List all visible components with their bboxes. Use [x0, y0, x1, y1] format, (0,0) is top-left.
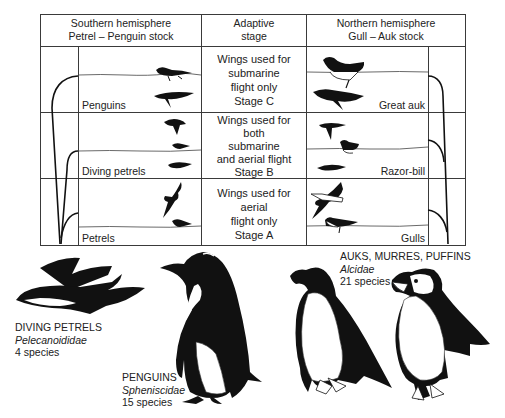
stage-c-description: Wings used for submarine flight only Sta… — [202, 52, 306, 108]
flying-gull-icon — [311, 182, 343, 219]
stage-a-line1: Wings used for — [202, 186, 306, 200]
diving-diving-petrel-icon — [168, 162, 192, 168]
swimming-petrel-icon — [172, 219, 192, 227]
stage-b-line2: both — [202, 127, 306, 140]
caption-diving-petrels-count: 4 species — [15, 346, 102, 359]
flying-diving-petrel-icon — [164, 119, 186, 135]
label-petrels: Petrels — [82, 232, 115, 244]
header-southern-line1: Southern hemisphere — [41, 17, 201, 30]
puffin-illustration-icon — [392, 268, 491, 400]
stage-b-description: Wings used for both submarine and aerial… — [202, 114, 306, 179]
label-razor-bill: Razor-bill — [307, 165, 425, 177]
flying-petrel-icon — [163, 182, 182, 218]
stage-a-line3: flight only — [202, 214, 306, 228]
stage-c-line1: Wings used for — [202, 52, 306, 66]
caption-penguins-count: 15 species — [122, 396, 185, 409]
caption-penguins-family: Spheniscidae — [122, 384, 185, 397]
caption-penguins-common: PENGUINS — [122, 371, 185, 384]
diving-petrel-illustration-icon — [16, 258, 145, 314]
stage-a-line4: Stage A — [202, 228, 306, 242]
caption-penguins: PENGUINS Spheniscidae 15 species — [122, 371, 185, 409]
stage-b-line3: submarine — [202, 140, 306, 153]
phylogeny-tree-right-icon — [428, 76, 448, 244]
stage-b-line1: Wings used for — [202, 114, 306, 127]
header-northern-hemisphere: Northern hemisphere Gull – Auk stock — [307, 17, 465, 43]
stage-a-description: Wings used for aerial flight only Stage … — [202, 186, 306, 242]
header-northern-line2: Gull – Auk stock — [307, 30, 465, 43]
caption-diving-petrels-family: Pelecanoididae — [15, 334, 102, 347]
stage-c-line2: submarine — [202, 66, 306, 80]
stage-b-line5: Stage B — [202, 166, 306, 179]
swimming-gull-icon — [325, 217, 358, 233]
phylogeny-tree-left-icon — [52, 76, 78, 244]
stage-c-line4: Stage C — [202, 94, 306, 108]
header-northern-line1: Northern hemisphere — [307, 17, 465, 30]
header-adaptive-line1: Adaptive — [202, 17, 306, 30]
label-penguins: Penguins — [82, 99, 126, 111]
swimming-penguin-icon — [156, 67, 192, 81]
caption-diving-petrels: DIVING PETRELS Pelecanoididae 4 species — [15, 321, 102, 359]
caption-alcids-count: 21 species — [340, 275, 471, 288]
caption-alcids-family: Alcidae — [340, 263, 471, 276]
label-great-auk: Great auk — [307, 99, 425, 111]
flying-razorbill-icon — [319, 123, 346, 140]
diving-penguin-icon — [154, 92, 194, 108]
swimming-diving-petrel-icon — [172, 143, 190, 149]
caption-alcids-common: AUKS, MURRES, PUFFINS — [340, 250, 471, 263]
header-adaptive-line2: stage — [202, 30, 306, 43]
header-southern-hemisphere: Southern hemisphere Petrel – Penguin sto… — [41, 17, 201, 43]
header-adaptive-stage: Adaptive stage — [202, 17, 306, 43]
swimming-razorbill-icon — [340, 140, 359, 153]
stage-c-line3: flight only — [202, 80, 306, 94]
header-southern-line2: Petrel – Penguin stock — [41, 30, 201, 43]
caption-diving-petrels-common: DIVING PETRELS — [15, 321, 102, 334]
label-diving-petrels: Diving petrels — [82, 165, 146, 177]
stage-a-line2: aerial — [202, 200, 306, 214]
caption-alcids: AUKS, MURRES, PUFFINS Alcidae 21 species — [340, 250, 471, 288]
stage-b-line4: and aerial flight — [202, 153, 306, 166]
label-gulls: Gulls — [307, 232, 425, 244]
